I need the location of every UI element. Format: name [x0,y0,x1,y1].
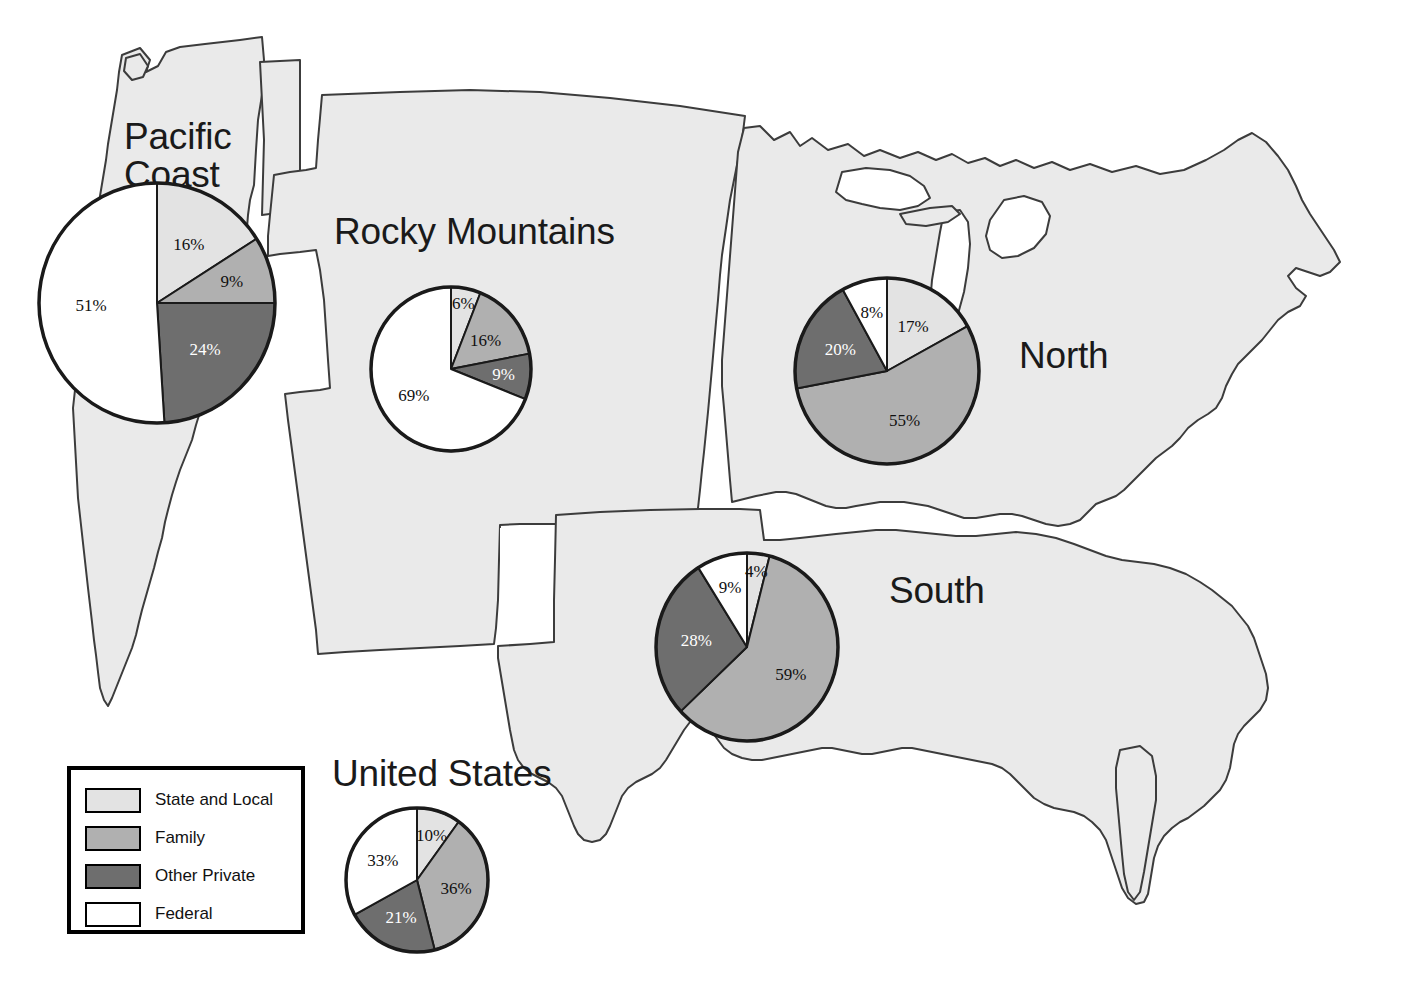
pie-chart-north[interactable]: 17%55%20%8% [765,248,1009,494]
legend-swatch-other-private [85,864,141,889]
pie-slice-label: 36% [441,879,472,898]
pie-slice-label: 59% [775,665,806,684]
pie-chart-rocky-mountains[interactable]: 6%16%9%69% [341,257,561,481]
legend-swatch-state-and-local [85,788,141,813]
legend-label-federal: Federal [155,904,213,924]
pie-slice-label: 8% [861,303,884,322]
legend-label-other-private: Other Private [155,866,255,886]
pie-slice-label: 33% [367,851,398,870]
pie-slice-label: 24% [190,340,221,359]
pie-chart-pacific-coast[interactable]: 16%9%24%51% [9,153,305,453]
region-label-south: South [889,572,985,610]
legend-label-family: Family [155,828,205,848]
pie-slice-label: 9% [492,365,515,384]
pie-chart-united-states[interactable]: 10%36%21%33% [316,778,518,982]
pie-slice-label: 55% [889,411,920,430]
legend-item-other-private[interactable]: Other Private [85,860,255,892]
pie-slice-label: 20% [825,340,856,359]
pie-slice-label: 21% [386,908,417,927]
legend-item-state-and-local[interactable]: State and Local [85,784,273,816]
pie-slice-label: 51% [75,296,106,315]
legend-label-state-and-local: State and Local [155,790,273,810]
pie-slice-label: 4% [745,562,768,581]
pie-slice-label: 17% [898,317,929,336]
pie-slice-label: 9% [719,578,742,597]
region-south[interactable] [498,509,1268,904]
legend-swatch-federal [85,902,141,927]
legend: State and Local Family Other Private Fed… [67,766,305,934]
pie-chart-south[interactable]: 4%59%28%9% [626,523,868,771]
forest-ownership-map-figure: Pacific Coast Rocky Mountains North Sout… [0,0,1413,1008]
legend-item-federal[interactable]: Federal [85,898,213,930]
region-label-rocky-mountains: Rocky Mountains [334,213,615,251]
legend-swatch-family [85,826,141,851]
pie-slice-label: 16% [470,331,501,350]
pie-slice-label: 16% [173,235,204,254]
pie-slice-label: 10% [416,826,447,845]
legend-item-family[interactable]: Family [85,822,205,854]
pie-slice-label: 9% [220,272,243,291]
pie-slice-label: 28% [681,631,712,650]
pie-slice-label: 69% [398,386,429,405]
region-label-north: North [1019,337,1108,375]
south-panhandle-notch [500,528,552,600]
pie-slice-label: 6% [452,294,475,313]
